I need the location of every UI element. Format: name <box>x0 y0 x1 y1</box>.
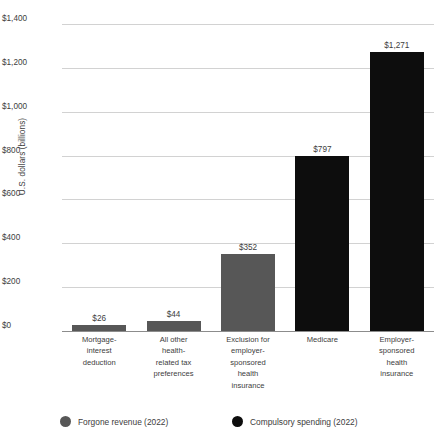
legend-label: Compulsory spending (2022) <box>250 417 358 427</box>
x-axis-label-line: sponsored <box>360 345 434 356</box>
bar-value-label: $352 <box>239 243 257 252</box>
bar-value-label: $797 <box>313 145 331 154</box>
plot-area: $0$200$400$600$800$1,000$1,200$1,400 $26… <box>62 24 434 331</box>
x-axis-label-line: preferences <box>136 368 210 379</box>
x-axis-tick-label: Exclusion foremployer-sponsoredhealthins… <box>211 334 285 391</box>
x-axis-label-line: sponsored <box>211 357 285 368</box>
x-axis-tick-label: Medicare <box>285 334 359 345</box>
x-axis-label-line: health <box>360 357 434 368</box>
bar-value-label: $26 <box>92 314 106 323</box>
x-axis-label-line: Exclusion for <box>211 334 285 345</box>
bar: $26 <box>72 325 126 331</box>
y-axis-tick-label: $1,200 <box>2 58 54 67</box>
bar: $797 <box>295 156 349 331</box>
y-axis-tick-label: $200 <box>2 277 54 286</box>
chart-legend: Forgone revenue (2022)Compulsory spendin… <box>60 416 440 440</box>
x-axis-label-line: health <box>211 368 285 379</box>
bar: $1,271 <box>370 52 424 331</box>
x-axis-tick-label: Mortgage-interestdeduction <box>62 334 136 368</box>
x-axis-tick-label: All otherhealth-related taxpreferences <box>136 334 210 380</box>
x-axis-label-line: Employer- <box>360 334 434 345</box>
legend-item[interactable]: Forgone revenue (2022) <box>60 416 168 427</box>
legend-swatch-circle-icon <box>232 416 243 427</box>
bar-chart: U.S. dollars (billions) $0$200$400$600$8… <box>0 0 440 448</box>
legend-label: Forgone revenue (2022) <box>78 417 168 427</box>
x-axis-label-line: interest <box>62 345 136 356</box>
x-axis-label-line: related tax <box>136 357 210 368</box>
x-axis-label-line: health- <box>136 345 210 356</box>
legend-swatch-circle-icon <box>60 416 71 427</box>
gridline <box>62 24 434 25</box>
y-axis-tick-label: $600 <box>2 189 54 198</box>
axis-baseline <box>62 331 434 332</box>
y-axis-tick-label: $400 <box>2 233 54 242</box>
legend-item[interactable]: Compulsory spending (2022) <box>232 416 358 427</box>
x-axis-tick-labels: Mortgage-interestdeductionAll otherhealt… <box>62 334 434 412</box>
x-axis-label-line: Medicare <box>285 334 359 345</box>
y-axis-tick-label: $1,400 <box>2 14 54 23</box>
bar: $44 <box>147 321 201 331</box>
x-axis-tick-label: Employer-sponsoredhealthinsurance <box>360 334 434 380</box>
y-axis-tick-label: $1,000 <box>2 102 54 111</box>
x-axis-label-line: employer- <box>211 345 285 356</box>
x-axis-label-line: deduction <box>62 357 136 368</box>
y-axis-title: U.S. dollars (billions) <box>18 72 27 242</box>
bar-value-label: $44 <box>167 310 181 319</box>
x-axis-label-line: All other <box>136 334 210 345</box>
x-axis-label-line: insurance <box>211 380 285 391</box>
x-axis-label-line: Mortgage- <box>62 334 136 345</box>
x-axis-label-line: insurance <box>360 368 434 379</box>
bar: $352 <box>221 254 275 331</box>
y-axis-tick-label: $0 <box>2 321 54 330</box>
y-axis-tick-label: $800 <box>2 146 54 155</box>
bar-value-label: $1,271 <box>384 41 409 50</box>
